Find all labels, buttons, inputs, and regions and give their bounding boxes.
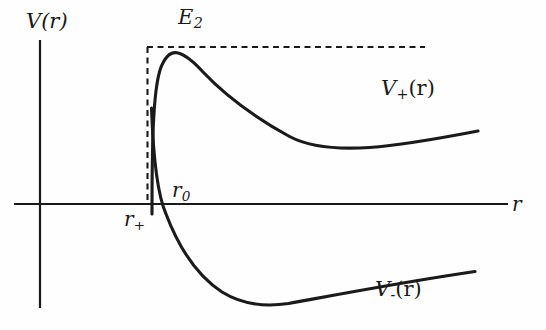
curve-v-plus-label-subscript: +: [396, 86, 408, 102]
horizontal-axis-label: r: [512, 192, 522, 216]
horizontal-axis-label-text: r: [512, 192, 522, 216]
curve-v-plus-label: V+(r): [381, 76, 435, 102]
r-zero-label-base: r: [172, 178, 182, 202]
r-plus-label-superscript: +: [134, 217, 146, 233]
curve-v-minus-label: V-(r): [375, 277, 422, 303]
energy-level-label-base: E: [178, 5, 193, 29]
potential-diagram: V(r) r E2 r0 r+ V+(r) V-(r): [0, 0, 546, 330]
curve-v-plus-label-base: V: [381, 76, 396, 100]
plot-canvas: [0, 0, 546, 330]
r-plus-label: r+: [124, 207, 145, 233]
r-zero-label-subscript: 0: [182, 188, 191, 204]
r-plus-label-base: r: [124, 207, 134, 231]
r-zero-label: r0: [172, 178, 190, 204]
energy-level-label: E2: [178, 5, 203, 31]
curve-v-minus-label-base: V: [375, 277, 390, 301]
curve-v-minus: [152, 108, 476, 305]
energy-level-label-subscript: 2: [193, 15, 202, 31]
curve-v-plus-label-arg: (r): [408, 76, 434, 100]
curve-v-minus-label-arg: (r): [395, 277, 421, 301]
vertical-axis-label: V(r): [26, 9, 68, 33]
vertical-axis-label-text: V(r): [26, 9, 68, 33]
